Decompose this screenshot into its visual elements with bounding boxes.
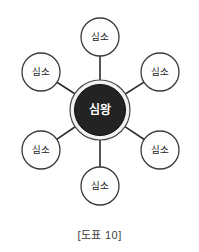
hub-node[interactable]: 심왕: [70, 80, 130, 140]
figure-container: 심소심소심소심소심소심소 심왕 [도표 10]: [0, 0, 199, 252]
satellite-node-bottom[interactable]: 심소: [81, 167, 119, 205]
satellite-label-upper-right: 심소: [151, 66, 169, 77]
figure-caption: [도표 10]: [0, 226, 199, 242]
satellite-label-lower-right: 심소: [151, 144, 169, 155]
satellite-node-top[interactable]: 심소: [81, 18, 119, 56]
spoke-line-upper-right: [124, 82, 144, 95]
spoke-line-upper-left: [56, 82, 75, 95]
satellite-label-top: 심소: [91, 31, 109, 42]
hub-and-spoke-diagram: 심소심소심소심소심소심소 심왕: [0, 0, 199, 252]
satellite-label-lower-left: 심소: [32, 144, 50, 155]
spoke-line-lower-left: [56, 126, 76, 140]
satellite-node-lower-left[interactable]: 심소: [22, 131, 60, 169]
spoke-line-lower-right: [124, 126, 145, 140]
satellite-node-lower-right[interactable]: 심소: [141, 131, 179, 169]
satellite-label-upper-left: 심소: [32, 66, 50, 77]
satellite-node-upper-right[interactable]: 심소: [141, 53, 179, 91]
satellite-label-bottom: 심소: [91, 180, 109, 191]
hub-label: 심왕: [89, 102, 112, 117]
satellite-node-upper-left[interactable]: 심소: [22, 53, 60, 91]
